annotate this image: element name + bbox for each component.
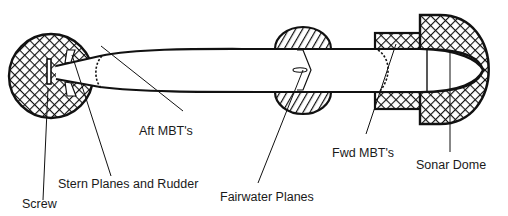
label-aft-mbt: Aft MBT's (139, 124, 193, 138)
hull (56, 49, 483, 92)
screw (47, 59, 51, 84)
label-fwd-mbt: Fwd MBT's (332, 146, 394, 160)
label-fairwater-planes: Fairwater Planes (220, 190, 314, 204)
label-stern-planes: Stern Planes and Rudder (58, 177, 198, 191)
label-screw: Screw (22, 197, 58, 211)
submarine-diagram: Aft MBT's Stern Planes and Rudder Screw … (0, 0, 508, 216)
label-sonar-dome: Sonar Dome (416, 158, 486, 172)
